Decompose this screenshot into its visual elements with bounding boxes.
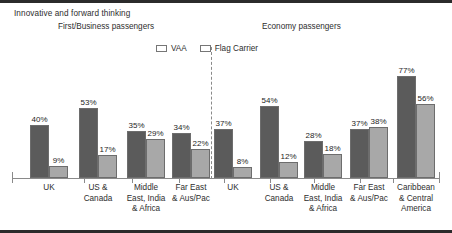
bar-slot: 56%: [416, 41, 435, 178]
panel-title-economy: Economy passengers: [262, 22, 341, 31]
x-axis-category-label-line: & Africa: [304, 204, 343, 215]
bar-slot: 40%: [30, 41, 49, 178]
bar-slot: 37%: [350, 41, 369, 178]
bar-slot: 29%: [146, 41, 165, 178]
x-axis-category-label: Far East& Aus/Pac: [350, 183, 388, 204]
bar-value-label: 53%: [80, 98, 96, 107]
slide-root: Innovative and forward thinking First/Bu…: [0, 0, 452, 233]
bar-group: 54%12%: [256, 41, 302, 178]
bar-value-label: 9%: [53, 156, 65, 165]
x-axis-category-label: Far East& Aus/Pac: [172, 183, 210, 204]
bar-group: 28%18%: [300, 41, 346, 178]
bar-value-label: 8%: [237, 157, 249, 166]
bar-slot: 12%: [279, 41, 298, 178]
bar-flag-carrier[interactable]: [146, 139, 165, 178]
x-axis-category-label-line: East, India: [127, 194, 166, 205]
bar-value-label: 38%: [370, 117, 386, 126]
bar-group-bars: 37%8%: [210, 41, 256, 178]
bar-slot: 28%: [304, 41, 323, 178]
bar-value-label: 17%: [99, 145, 115, 154]
bar-vaa[interactable]: [304, 141, 323, 178]
bar-slot: 34%: [172, 41, 191, 178]
x-axis-category-label-line: Far East: [350, 183, 388, 194]
bar-flag-carrier[interactable]: [191, 149, 210, 178]
bar-group-bars: 40%9%: [26, 41, 72, 178]
bar-group: 35%29%: [123, 41, 169, 178]
bar-value-label: 34%: [173, 123, 189, 132]
bar-flag-carrier[interactable]: [279, 162, 298, 178]
x-axis-category-label-line: UK: [227, 183, 238, 194]
x-axis-category-label: MiddleEast, India& Africa: [304, 183, 343, 215]
bar-slot: 18%: [323, 41, 342, 178]
x-axis-category-label-line: & Africa: [127, 204, 166, 215]
bar-group: 53%17%: [75, 41, 121, 178]
bar-flag-carrier[interactable]: [98, 155, 117, 178]
bar-value-label: 35%: [128, 121, 144, 130]
x-axis-category-label: UK: [227, 183, 238, 194]
bar-slot: 17%: [98, 41, 117, 178]
x-axis-category-label-line: Canada: [84, 194, 113, 205]
x-axis-category-label-line: Middle: [127, 183, 166, 194]
bar-group: 34%22%: [168, 41, 214, 178]
x-axis-category-label-line: Middle: [304, 183, 343, 194]
bar-value-label: 12%: [280, 152, 296, 161]
bar-flag-carrier[interactable]: [323, 154, 342, 178]
bar-slot: 35%: [127, 41, 146, 178]
x-axis-category-label-line: US &: [84, 183, 113, 194]
bar-group-bars: 35%29%: [123, 41, 169, 178]
bar-group-bars: 28%18%: [300, 41, 346, 178]
x-axis-category-label-line: & Aus/Pac: [350, 194, 388, 205]
bar-value-label: 28%: [305, 131, 321, 140]
bar-value-label: 18%: [324, 144, 340, 153]
x-axis-category-label-line: America: [397, 204, 435, 215]
x-axis-category-label-line: US &: [265, 183, 294, 194]
bar-slot: 77%: [397, 41, 416, 178]
bar-slot: 9%: [49, 41, 68, 178]
bar-flag-carrier[interactable]: [233, 167, 252, 178]
x-axis-category-label: Caribbean& CentralAmerica: [397, 183, 435, 215]
bar-vaa[interactable]: [214, 129, 233, 178]
bar-flag-carrier[interactable]: [49, 166, 68, 178]
bar-vaa[interactable]: [397, 76, 416, 178]
bar-group-bars: 37%38%: [346, 41, 392, 178]
bar-value-label: 56%: [417, 94, 433, 103]
bar-group-bars: 34%22%: [168, 41, 214, 178]
x-axis-category-label-line: East, India: [304, 194, 343, 205]
bar-slot: 53%: [79, 41, 98, 178]
x-axis-category-label-line: Far East: [172, 183, 210, 194]
x-axis-category-label: US &Canada: [84, 183, 113, 204]
x-axis-category-label-line: Canada: [265, 194, 294, 205]
x-axis-category-label-line: UK: [43, 183, 54, 194]
bar-group-bars: 54%12%: [256, 41, 302, 178]
bar-flag-carrier[interactable]: [416, 104, 435, 178]
bar-flag-carrier[interactable]: [369, 127, 388, 178]
x-axis-category-label-line: Caribbean: [397, 183, 435, 194]
x-axis-category-label-line: & Central: [397, 194, 435, 205]
x-axis-category-label: MiddleEast, India& Africa: [127, 183, 166, 215]
x-axis-category-labels: UKUS &CanadaMiddleEast, India& AfricaFar…: [0, 183, 452, 233]
bar-value-label: 54%: [261, 96, 277, 105]
bar-group: 37%38%: [346, 41, 392, 178]
bar-vaa[interactable]: [172, 133, 191, 178]
bar-group-bars: 53%17%: [75, 41, 121, 178]
bar-slot: 54%: [260, 41, 279, 178]
bar-group: 40%9%: [26, 41, 72, 178]
x-axis-category-label: UK: [43, 183, 54, 194]
bar-vaa[interactable]: [79, 108, 98, 178]
bar-slot: 22%: [191, 41, 210, 178]
bar-vaa[interactable]: [127, 131, 146, 178]
bar-slot: 37%: [214, 41, 233, 178]
bar-vaa[interactable]: [350, 129, 369, 178]
chart-plot-area: 40%9%53%17%35%29%34%22%37%8%54%12%28%18%…: [0, 39, 452, 180]
slide-title: Innovative and forward thinking: [14, 9, 130, 18]
bar-value-label: 37%: [215, 119, 231, 128]
bar-value-label: 40%: [31, 115, 47, 124]
bar-vaa[interactable]: [260, 106, 279, 178]
bar-vaa[interactable]: [30, 125, 49, 178]
bar-value-label: 29%: [147, 129, 163, 138]
bar-value-label: 22%: [192, 139, 208, 148]
bar-value-label: 37%: [351, 119, 367, 128]
x-axis-category-label: US &Canada: [265, 183, 294, 204]
bar-group: 37%8%: [210, 41, 256, 178]
bar-slot: 8%: [233, 41, 252, 178]
